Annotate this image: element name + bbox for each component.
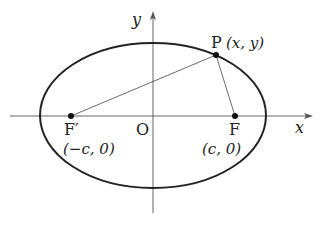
focus-left-dot [68,113,74,119]
y-axis-label: y [131,10,142,29]
focus-right-dot [232,113,238,119]
x-axis [10,113,313,119]
point-p-coords: (x, y) [226,34,264,52]
focus-left-name: F′ [64,120,79,139]
focus-left-coords: (−c, 0) [63,140,115,158]
point-p-name: P [211,33,222,52]
x-axis-label: x [295,118,304,137]
focus-right-name: F [229,120,240,139]
focus-right-coords: (c, 0) [202,140,241,158]
segment-pf-prime [71,55,216,116]
ellipse-diagram: y x O P (x, y) F′ (−c, 0) F (c, 0) [0,0,330,234]
point-p-dot [213,52,219,58]
y-axis [150,11,156,213]
origin-label: O [136,120,149,139]
